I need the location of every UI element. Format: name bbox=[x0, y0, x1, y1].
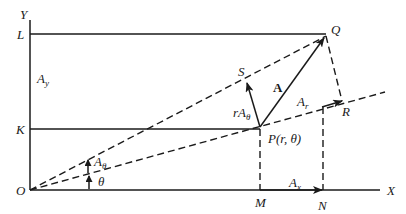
angle-theta-label: θ bbox=[98, 174, 105, 189]
vector-A-r-label: Ar bbox=[296, 94, 309, 111]
ray-O-Q bbox=[30, 36, 326, 190]
y-axis-label: Y bbox=[20, 7, 29, 22]
angle-A-theta-label: Aθ bbox=[93, 154, 107, 171]
vector-r-A-theta-label: rAθ bbox=[233, 105, 251, 122]
vector-A bbox=[260, 38, 324, 127]
point-K-label: K bbox=[15, 122, 26, 137]
point-P-label: P(r, θ) bbox=[267, 131, 301, 146]
point-S-label: S bbox=[238, 64, 245, 79]
point-L-label: L bbox=[16, 27, 24, 42]
polar-cartesian-vector-diagram: Y X O L K M N Q R S P(r, θ) A Ar rAθ Ax … bbox=[0, 0, 406, 214]
point-N-label: N bbox=[317, 198, 328, 213]
x-axis-label: X bbox=[386, 183, 396, 198]
point-M-label: M bbox=[254, 195, 267, 210]
vector-A-label: A bbox=[273, 80, 283, 95]
vector-A-y-label: Ay bbox=[36, 71, 49, 88]
point-Q-label: Q bbox=[331, 22, 341, 37]
projection-Q-R bbox=[326, 36, 342, 101]
point-R-label: R bbox=[341, 104, 350, 119]
vector-A-x-label: Ax bbox=[288, 175, 301, 192]
origin-label: O bbox=[16, 183, 26, 198]
ray-O-P-R bbox=[30, 92, 385, 190]
